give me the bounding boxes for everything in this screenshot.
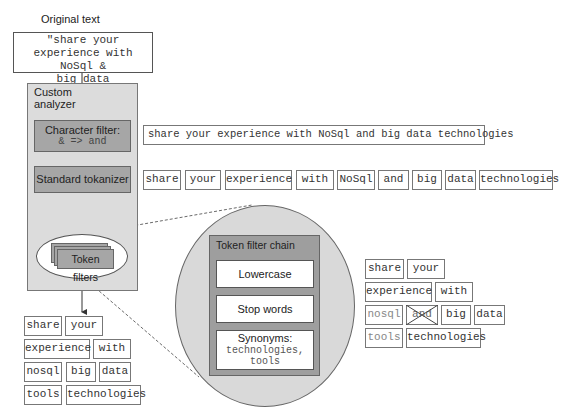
result-token: technologies bbox=[406, 328, 481, 348]
result-token-faded: nosql bbox=[365, 305, 403, 325]
result-token: your bbox=[407, 259, 445, 279]
filter-step-stop-words: Stop words bbox=[216, 295, 314, 323]
final-token: experience bbox=[24, 339, 90, 359]
final-token: nosql bbox=[24, 362, 62, 382]
tokenizer-token: share bbox=[143, 170, 181, 190]
filter-step-lowercase: Lowercase bbox=[216, 260, 314, 288]
final-token: tools bbox=[24, 385, 62, 405]
result-token: share bbox=[365, 259, 404, 279]
character-filter-rule: & => and bbox=[35, 136, 130, 148]
original-line-2: experience with NoSql & bbox=[14, 47, 152, 73]
tokenizer-token: data bbox=[445, 170, 476, 190]
final-token: with bbox=[93, 339, 131, 359]
tokenizer-token: experience bbox=[225, 170, 292, 190]
token-filters-label: Token filters bbox=[57, 249, 114, 269]
custom-analyzer-title: Custom analyzer bbox=[34, 86, 76, 110]
final-token: data bbox=[99, 362, 131, 382]
original-text-box: "share your experience with NoSql & big … bbox=[13, 32, 153, 73]
final-token: technologies bbox=[66, 385, 141, 405]
synonyms-line-2: tools bbox=[217, 356, 313, 368]
final-token: your bbox=[65, 316, 103, 336]
final-token: share bbox=[24, 316, 62, 336]
tokenizer-token: and bbox=[378, 170, 409, 190]
result-token-struck: and bbox=[406, 305, 438, 325]
result-token: big bbox=[441, 305, 471, 325]
tokenizer-token: technologies bbox=[479, 170, 553, 190]
standard-tokenizer-box: Standard tokanizer bbox=[34, 166, 131, 193]
character-filter-box: Character filter: & => and bbox=[34, 120, 131, 152]
strike-x-icon bbox=[406, 305, 438, 325]
filter-step-synonyms: Synonyms: technologies, tools bbox=[216, 330, 314, 370]
synonyms-title: Synonyms: bbox=[217, 333, 313, 345]
final-token: big bbox=[66, 362, 96, 382]
char-filter-output: share your experience with NoSql and big… bbox=[143, 125, 485, 145]
tokenizer-token: big bbox=[412, 170, 442, 190]
tokenizer-token: with bbox=[296, 170, 334, 190]
result-token: with bbox=[435, 282, 473, 302]
tokenizer-token: your bbox=[185, 170, 221, 190]
synonyms-line-1: technologies, bbox=[217, 345, 313, 357]
original-line-1: "share your bbox=[14, 34, 152, 47]
result-token-faded: tools bbox=[365, 328, 403, 348]
tokenizer-token: NoSql bbox=[337, 170, 375, 190]
token-filter-chain-title: Token filter chain bbox=[216, 239, 295, 251]
result-token: experience bbox=[365, 282, 432, 302]
original-text-heading: Original text bbox=[41, 13, 100, 25]
result-token: data bbox=[474, 305, 505, 325]
character-filter-title: Character filter: bbox=[35, 124, 130, 136]
